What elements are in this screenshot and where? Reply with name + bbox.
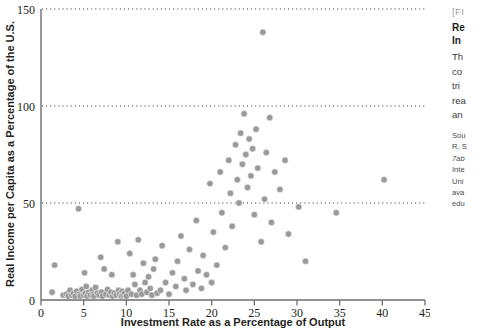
figure-caption-column: [FI Re In Thcotrireaan SouR. S7abInteUni… <box>452 6 482 326</box>
x-tick-label-0: 0 <box>38 306 44 320</box>
gridlines-group <box>42 9 425 203</box>
caption-source-line: Uni <box>452 176 482 187</box>
data-point <box>277 186 283 192</box>
data-point <box>166 291 172 297</box>
data-point <box>229 223 235 229</box>
x-tick-label-45: 45 <box>419 306 430 320</box>
data-point <box>169 270 175 276</box>
y-tick-label-100: 100 <box>17 100 35 114</box>
data-point <box>81 270 87 276</box>
figure-caption-body: Thcotrireaan <box>452 50 482 123</box>
caption-body-line: co <box>452 65 482 80</box>
caption-source-line: Inte <box>452 164 482 175</box>
caption-source-line: ava <box>452 187 482 198</box>
figure-root: 051015202530354045 050100150 Investment … <box>0 0 482 331</box>
data-point <box>210 229 216 235</box>
data-point <box>145 274 151 280</box>
data-point <box>190 281 196 287</box>
x-tick-label-40: 40 <box>376 306 388 320</box>
data-point <box>232 142 238 148</box>
data-point <box>263 149 269 155</box>
data-point <box>214 262 220 268</box>
data-point <box>75 206 81 212</box>
caption-body-line: tri <box>452 79 482 94</box>
plot-svg: 051015202530354045 050100150 Investment … <box>0 0 430 331</box>
data-point <box>140 260 146 266</box>
caption-source-line: Sou <box>452 130 482 141</box>
data-point <box>219 210 225 216</box>
data-point <box>83 283 89 289</box>
figure-source-note: SouR. S7abInteUniavaedu <box>452 130 482 210</box>
data-point <box>193 217 199 223</box>
data-point <box>152 256 158 262</box>
data-point <box>49 289 55 295</box>
data-point <box>237 130 243 136</box>
data-point <box>217 169 223 175</box>
data-point <box>174 258 180 264</box>
data-point <box>195 268 201 274</box>
data-point <box>246 136 252 142</box>
caption-source-line: 7ab <box>452 153 482 164</box>
data-point <box>302 258 308 264</box>
data-point <box>268 219 274 225</box>
data-point <box>234 177 240 183</box>
data-point <box>127 250 133 256</box>
data-point <box>227 190 233 196</box>
data-point <box>236 200 242 206</box>
data-point <box>109 272 115 278</box>
caption-source-line: R. S <box>452 141 482 152</box>
y-tick-label-0: 0 <box>29 294 35 308</box>
data-point <box>333 210 339 216</box>
caption-body-line: Th <box>452 50 482 65</box>
data-point <box>239 161 245 167</box>
figure-title-line-2: In <box>452 34 482 47</box>
data-point <box>159 242 165 248</box>
data-point <box>381 177 387 183</box>
caption-source-line: edu <box>452 198 482 209</box>
data-point <box>222 244 228 250</box>
data-point <box>266 114 272 120</box>
figure-number: [FI <box>452 6 482 17</box>
data-point <box>255 165 261 171</box>
data-point <box>296 204 302 210</box>
data-point <box>98 254 104 260</box>
data-point <box>249 145 255 151</box>
x-axis-title: Investment Rate as a Percentage of Outpu… <box>121 316 346 328</box>
data-point <box>157 287 163 293</box>
data-point <box>282 157 288 163</box>
data-point <box>183 287 189 293</box>
data-point <box>272 169 278 175</box>
caption-body-line: an <box>452 108 482 123</box>
data-point <box>92 284 98 290</box>
y-axis-ticks: 050100150 <box>17 3 35 308</box>
data-point <box>243 151 249 157</box>
data-point <box>261 196 267 202</box>
y-tick-label-150: 150 <box>17 3 35 17</box>
data-point <box>130 272 136 278</box>
y-tick-label-50: 50 <box>23 197 35 211</box>
data-point <box>203 272 209 278</box>
data-point <box>173 283 179 289</box>
data-point <box>51 262 57 268</box>
data-point <box>200 252 206 258</box>
data-point <box>198 285 204 291</box>
data-point <box>162 279 168 285</box>
data-point <box>181 275 187 281</box>
y-axis-title: Real Income per Capita as a Percentage o… <box>4 21 16 287</box>
data-point <box>135 237 141 243</box>
data-point <box>186 246 192 252</box>
x-tick-label-5: 5 <box>81 306 87 320</box>
data-point <box>101 266 107 272</box>
data-point <box>285 231 291 237</box>
data-point <box>142 279 148 285</box>
figure-title-line-1: Re <box>452 21 482 34</box>
data-point <box>244 184 250 190</box>
data-point <box>258 239 264 245</box>
data-point <box>241 111 247 117</box>
data-point <box>251 211 257 217</box>
data-point <box>115 239 121 245</box>
data-point <box>207 180 213 186</box>
data-point <box>150 266 156 272</box>
data-point <box>248 173 254 179</box>
caption-body-line: rea <box>452 94 482 109</box>
